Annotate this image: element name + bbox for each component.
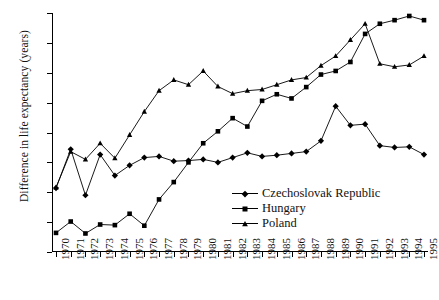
series-poland xyxy=(53,21,426,190)
x-tick-mark xyxy=(336,252,337,257)
legend-item[interactable]: Czechoslovak Republic xyxy=(232,186,380,201)
chart-legend: Czechoslovak RepublicHungaryPoland xyxy=(232,186,380,231)
x-tick-mark xyxy=(424,252,425,257)
x-tick-label: 1995 xyxy=(428,238,439,260)
square-marker-icon xyxy=(232,202,258,216)
x-tick-mark xyxy=(174,252,175,257)
diamond-marker-icon xyxy=(232,187,258,201)
x-tick-mark xyxy=(395,252,396,257)
x-tick-mark xyxy=(380,252,381,257)
x-tick-mark xyxy=(56,252,57,257)
x-tick-mark xyxy=(306,252,307,257)
x-tick-mark xyxy=(350,252,351,257)
legend-item[interactable]: Hungary xyxy=(232,201,380,216)
x-tick-mark xyxy=(409,252,410,257)
series-czechoslovak-republic xyxy=(53,103,427,198)
x-tick-mark xyxy=(233,252,234,257)
x-tick-mark xyxy=(277,252,278,257)
x-tick-mark xyxy=(130,252,131,257)
x-tick-mark xyxy=(159,252,160,257)
legend-label: Poland xyxy=(258,216,297,231)
x-tick-mark xyxy=(262,252,263,257)
x-tick-mark xyxy=(85,252,86,257)
legend-label: Hungary xyxy=(258,201,306,216)
x-tick-mark xyxy=(365,252,366,257)
x-tick-mark xyxy=(115,252,116,257)
y-tick-mark xyxy=(47,252,52,253)
x-tick-mark xyxy=(321,252,322,257)
legend-item[interactable]: Poland xyxy=(232,216,380,231)
x-tick-mark xyxy=(292,252,293,257)
x-tick-mark xyxy=(144,252,145,257)
x-tick-mark xyxy=(247,252,248,257)
x-tick-mark xyxy=(71,252,72,257)
x-tick-mark xyxy=(218,252,219,257)
legend-label: Czechoslovak Republic xyxy=(258,186,380,201)
y-axis-title: Difference in life expectancy (years) xyxy=(18,16,30,216)
x-tick-mark xyxy=(100,252,101,257)
x-tick-mark xyxy=(188,252,189,257)
triangle-marker-icon xyxy=(232,217,258,231)
x-tick-mark xyxy=(203,252,204,257)
